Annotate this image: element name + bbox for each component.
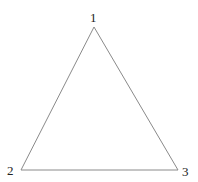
vertex-label-2: 2 bbox=[7, 164, 14, 177]
vertex-label-1: 1 bbox=[90, 11, 97, 24]
triangle-diagram: 1 2 3 bbox=[0, 0, 198, 182]
vertex-label-3: 3 bbox=[182, 165, 189, 178]
triangle-shape bbox=[0, 0, 198, 182]
